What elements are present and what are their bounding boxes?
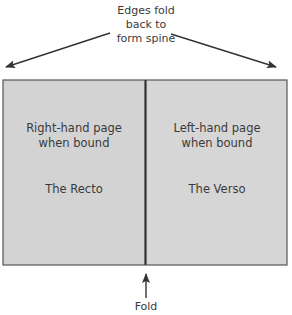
spine-label-line: form spine: [96, 32, 196, 46]
diagram-canvas: [0, 0, 292, 315]
recto-description-line: when bound: [3, 136, 145, 151]
left-arrow-icon: [6, 33, 110, 67]
verso-description-line: Left-hand page: [147, 121, 287, 136]
recto-name: The Recto: [3, 182, 145, 197]
fold-label: Fold: [116, 300, 176, 314]
verso-description: Left-hand page when bound: [147, 121, 287, 151]
recto-description: Right-hand page when bound: [3, 121, 145, 151]
recto-description-line: Right-hand page: [3, 121, 145, 136]
verso-name: The Verso: [147, 182, 287, 197]
spine-label: Edges fold back to form spine: [96, 4, 196, 46]
spine-label-line: Edges fold: [96, 4, 196, 18]
spine-label-line: back to: [96, 18, 196, 32]
verso-page: [146, 80, 287, 265]
verso-description-line: when bound: [147, 136, 287, 151]
recto-page: [3, 80, 145, 265]
